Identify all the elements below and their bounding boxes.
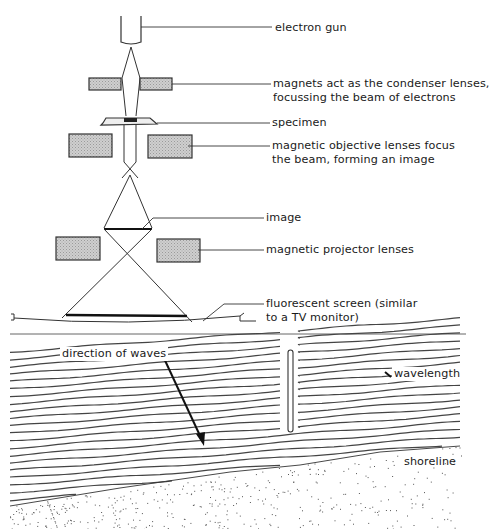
beam-objective <box>122 125 138 178</box>
beam-upper <box>122 47 140 116</box>
barrier <box>288 350 293 432</box>
wave-diagram <box>10 318 460 501</box>
fluorescent-image <box>66 315 187 316</box>
objective-lens-right <box>148 135 192 158</box>
wave-crest <box>10 414 460 449</box>
screen-mount-left <box>11 314 14 320</box>
wave-crest <box>10 385 460 418</box>
wave-crest <box>10 407 460 441</box>
condenser-lens-right <box>140 78 172 90</box>
label-screen-2: to a TV monitor) <box>266 311 359 325</box>
electron-gun-icon <box>121 16 141 44</box>
label-objective-1: magnetic objective lenses focus <box>272 139 455 153</box>
label-specimen: specimen <box>272 116 327 130</box>
condenser-lens-left <box>89 78 121 90</box>
arrow-head-icon <box>196 432 205 446</box>
screen-mount-right <box>240 313 256 321</box>
sand-texture <box>10 447 462 529</box>
projector-lens-right <box>157 239 200 262</box>
objective-lens-left <box>69 134 112 157</box>
electron-microscope-diagram <box>11 16 272 322</box>
label-shoreline: shoreline <box>404 455 456 469</box>
label-condenser-2: focussing the beam of electrons <box>273 91 456 105</box>
specimen-sample <box>124 118 137 122</box>
leader-image <box>142 218 264 229</box>
wave-crest <box>10 430 460 464</box>
projector-lens-left <box>56 237 100 260</box>
label-projector: magnetic projector lenses <box>266 243 414 257</box>
label-electron-gun: electron gun <box>275 21 347 35</box>
label-image: image <box>266 211 301 225</box>
label-objective-2: the beam, forming an image <box>272 153 435 167</box>
beam-to-image <box>104 175 152 228</box>
label-wavelength: wavelength <box>392 367 462 381</box>
wave-crest <box>10 481 172 493</box>
label-direction-of-waves: direction of waves <box>60 347 168 361</box>
label-condenser-1: magnets act as the condenser lenses, <box>273 77 490 91</box>
label-screen-1: fluorescent screen (similar <box>266 297 417 311</box>
wave-crest <box>10 494 76 501</box>
wave-crest <box>10 377 460 412</box>
